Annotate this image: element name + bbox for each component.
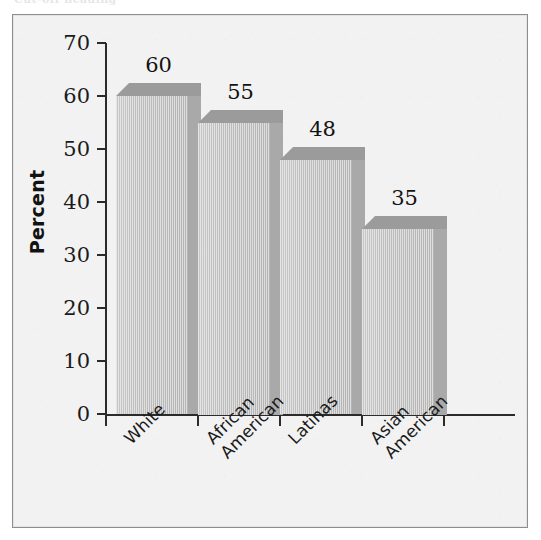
y-axis-tick-label: 70 (63, 31, 90, 55)
y-axis-tick: 20 (97, 307, 106, 309)
y-axis-tick: 0 (97, 413, 106, 415)
chart-page: Cut-off heading Percent 706050403020100 … (0, 0, 541, 540)
bar: 60 (116, 83, 188, 414)
x-axis-tick (105, 416, 107, 426)
cut-off-caption: Cut-off heading (14, 0, 214, 5)
bar-front-face (116, 96, 188, 414)
bar-value-label: 48 (280, 117, 365, 141)
bar-front-face (198, 123, 270, 415)
bar-value-label: 35 (362, 186, 447, 210)
y-axis-tick: 30 (97, 254, 106, 256)
y-axis-tick-label: 0 (77, 402, 90, 426)
y-axis-tick: 40 (97, 201, 106, 203)
bar-top-face (116, 83, 201, 96)
bar-value-label: 55 (198, 80, 283, 104)
bar: 48 (280, 147, 352, 414)
y-axis-tick-label: 60 (63, 84, 90, 108)
y-axis-title: Percent (26, 152, 48, 272)
plot-area: Percent 706050403020100 60554835 WhiteAf… (13, 15, 527, 527)
bar-front-face (280, 160, 352, 414)
x-axis-tick (361, 416, 363, 426)
bar-top-face (362, 216, 447, 229)
y-axis-tick-label: 50 (63, 137, 90, 161)
bar-value-label: 60 (116, 53, 201, 77)
chart-frame: Percent 706050403020100 60554835 WhiteAf… (12, 14, 528, 528)
bar-top-face (280, 147, 365, 160)
y-axis-tick: 60 (97, 95, 106, 97)
y-axis-tick: 10 (97, 360, 106, 362)
y-axis-tick: 50 (97, 148, 106, 150)
y-axis-tick-label: 20 (63, 296, 90, 320)
y-axis-tick-label: 10 (63, 349, 90, 373)
bar-top-face (198, 110, 283, 123)
y-axis-tick-label: 30 (63, 243, 90, 267)
x-axis-tick (443, 416, 445, 426)
y-axis-tick-label: 40 (63, 190, 90, 214)
y-axis-tick: 70 (97, 42, 106, 44)
bar-side-face (434, 229, 447, 415)
bar: 55 (198, 110, 270, 415)
x-axis-tick (197, 416, 199, 426)
x-axis-tick (279, 416, 281, 426)
